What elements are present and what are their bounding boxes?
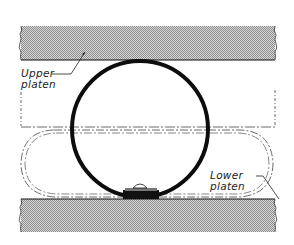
ring-specimen bbox=[72, 61, 208, 197]
lower-platen-leader bbox=[256, 176, 279, 199]
lower-platen-label: Lower platen bbox=[210, 170, 245, 192]
upper-platen-label-line2: platen bbox=[21, 79, 56, 90]
upper-platen-label: Upper platen bbox=[21, 68, 56, 90]
lower-platen bbox=[19, 199, 277, 232]
lower-platen-label-line2: platen bbox=[210, 181, 245, 192]
upper-platen bbox=[19, 26, 277, 60]
upper-platen-compressed-position bbox=[21, 90, 275, 127]
ring-clamp-fixture bbox=[123, 184, 159, 199]
ring-compression-diagram bbox=[0, 0, 294, 245]
